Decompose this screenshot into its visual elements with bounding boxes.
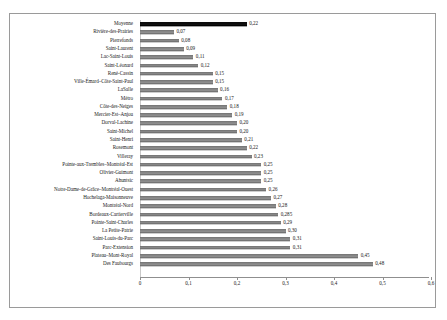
bar	[140, 238, 290, 242]
bar-track	[140, 113, 232, 117]
bar-row: Des Faubourgs0,48	[10, 260, 435, 268]
bar-track	[140, 238, 290, 242]
bar-value-label: 0,08	[181, 38, 190, 43]
category-label: Montréal-Nord	[103, 204, 133, 209]
bar-value-label: 0,29	[283, 220, 292, 225]
bar-value-label: 0,21	[244, 137, 253, 142]
bar-track	[140, 97, 222, 101]
bar-row: Plateau–Mont-Royal0,45	[10, 252, 435, 260]
bar-row: Pierrefonds0,08	[10, 37, 435, 45]
category-label: Bordeaux-Cartierville	[89, 212, 133, 217]
value-axis: 00,10,20,30,40,50,6	[140, 277, 429, 291]
category-label: Pointe-Saint-Charles	[92, 220, 133, 225]
bar	[140, 97, 222, 101]
category-label: Hochelaga-Maisonneuve	[83, 195, 133, 200]
category-label: LaSalle	[118, 88, 133, 93]
bar	[140, 80, 213, 84]
category-label: La Petite-Patrie	[102, 229, 133, 234]
bar-track	[140, 246, 290, 250]
axis-tick-label: 0,2	[234, 281, 240, 286]
category-label: Moyenne	[114, 22, 133, 27]
bar	[140, 39, 179, 43]
bar-track	[140, 147, 247, 151]
bar-value-label: 0,15	[215, 71, 224, 76]
bar-value-label: 0,25	[264, 171, 273, 176]
bar-row: Bordeaux-Cartierville0,285	[10, 210, 435, 218]
category-label: Métro	[121, 96, 133, 101]
bar-track	[140, 47, 184, 51]
category-label: Côte-des-Neiges	[100, 104, 133, 109]
axis-tick-label: 0,3	[282, 281, 288, 286]
category-label: Saint-Henri	[110, 137, 133, 142]
bar	[140, 204, 276, 208]
category-label: Rosemont	[113, 146, 133, 151]
bar-track	[140, 155, 252, 159]
bar-value-label: 0,16	[220, 88, 229, 93]
bar-row: Rosemont0,22	[10, 144, 435, 152]
bar-row: Côte-des-Neiges0,18	[10, 103, 435, 111]
bar-row: La Petite-Patrie0,30	[10, 227, 435, 235]
bar	[140, 163, 261, 167]
bar-track	[140, 163, 261, 167]
bar-track	[140, 171, 261, 175]
bar	[140, 105, 227, 109]
bar-value-label: 0,18	[230, 104, 239, 109]
bar-track	[140, 138, 242, 142]
bar-track	[140, 221, 281, 225]
bar-row: Pointe-aux-Trembles–Montréal-Est0,25	[10, 161, 435, 169]
bar-row: Parc-Extension0,31	[10, 244, 435, 252]
bar-track	[140, 31, 174, 35]
bar	[140, 147, 247, 151]
plot-area: Moyenne0,22Rivière-des-Prairies0,07Pierr…	[10, 14, 435, 307]
bar	[140, 262, 373, 266]
bar-track	[140, 213, 278, 217]
bar-value-label: 0,25	[264, 162, 273, 167]
bar-value-label: 0,17	[225, 96, 234, 101]
category-label: Plateau–Mont-Royal	[91, 253, 133, 258]
bar-value-label: 0,22	[249, 22, 258, 27]
category-label: Saint-Laurent	[106, 46, 133, 51]
bar-track	[140, 229, 286, 233]
bar-row: Saint-Louis-du-Parc0,31	[10, 235, 435, 243]
bar-track	[140, 80, 213, 84]
bar-value-label: 0,23	[254, 154, 263, 159]
bar	[140, 221, 281, 225]
bar-value-label: 0,28	[278, 204, 287, 209]
bar-row: Saint-Henri0,21	[10, 136, 435, 144]
category-label: Rivière-des-Prairies	[93, 30, 133, 35]
bar-value-label: 0,11	[196, 55, 205, 60]
axis-tick-label: 0,6	[428, 281, 434, 286]
bar-value-label: 0,19	[235, 113, 244, 118]
bar	[140, 122, 237, 126]
bar	[140, 55, 193, 59]
bar-row: Mercier-Est–Anjou0,19	[10, 111, 435, 119]
bar	[140, 72, 213, 76]
bar-value-label: 0,45	[361, 253, 370, 258]
bar-row: Hochelaga-Maisonneuve0,27	[10, 194, 435, 202]
bar-value-label: 0,25	[264, 179, 273, 184]
bar-row: LaSalle0,16	[10, 86, 435, 94]
bar-track	[140, 122, 237, 126]
bar-track	[140, 39, 179, 43]
bar-value-label: 0,22	[249, 146, 258, 151]
bar	[140, 22, 247, 26]
bar-value-label: 0,285	[281, 212, 292, 217]
category-label: Villeray	[117, 154, 133, 159]
bar	[140, 254, 358, 258]
bar	[140, 229, 286, 233]
bar	[140, 89, 218, 93]
category-label: Saint-Léonard	[105, 63, 134, 68]
value-axis-line	[140, 277, 429, 278]
category-label: Notre-Dame-de-Grâce–Montréal-Ouest	[54, 187, 133, 192]
bar	[140, 196, 271, 200]
bar	[140, 31, 174, 35]
bar-value-label: 0,26	[269, 187, 278, 192]
bar-track	[140, 89, 218, 93]
category-label: René-Cassin	[108, 71, 133, 76]
bar-row: Pointe-Saint-Charles0,29	[10, 219, 435, 227]
category-label: Mercier-Est–Anjou	[94, 113, 133, 118]
category-label: Saint-Louis-du-Parc	[93, 237, 133, 242]
bar-value-label: 0,31	[293, 245, 302, 250]
bar-track	[140, 196, 271, 200]
category-label: Pierrefonds	[110, 38, 133, 43]
